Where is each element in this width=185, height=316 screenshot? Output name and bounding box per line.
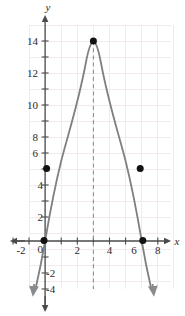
parabola-left-arrow [33, 284, 34, 292]
y-tick-label-4: 4 [38, 179, 44, 191]
y-tick-label-6: 6 [33, 147, 39, 159]
x-tick-label-neg2: -2 [16, 244, 25, 256]
parabola-graph-svg: 14 12 10 8 6 4 2 0 -2 -4 -2 2 4 6 8 y x [0, 0, 185, 316]
y-axis-label: y [45, 1, 51, 13]
graph-figure: 14 12 10 8 6 4 2 0 -2 -4 -2 2 4 6 8 y x [0, 0, 185, 316]
x-axis-label: x [174, 235, 180, 247]
y-tick-label-2: 2 [38, 211, 44, 223]
point-y-intercept [43, 165, 50, 172]
y-tick-label-neg4: -4 [46, 283, 56, 295]
point-vertex [90, 38, 97, 45]
parabola-right-arrow [153, 284, 154, 292]
x-tick-label-8: 8 [155, 244, 161, 256]
y-tick-label-0: 0 [38, 243, 44, 255]
x-tick-label-2: 2 [75, 244, 81, 256]
y-tick-label-neg2: -2 [46, 267, 55, 279]
y-tick-label-14: 14 [27, 35, 39, 47]
y-tick-label-8: 8 [33, 131, 39, 143]
x-tick-label-6: 6 [131, 244, 137, 256]
y-tick-label-10: 10 [27, 99, 39, 111]
y-tick-label-12: 12 [27, 67, 38, 79]
plot-background [0, 0, 185, 316]
point-right-root [139, 237, 146, 244]
point-symmetric [137, 165, 144, 172]
x-tick-label-4: 4 [107, 244, 113, 256]
